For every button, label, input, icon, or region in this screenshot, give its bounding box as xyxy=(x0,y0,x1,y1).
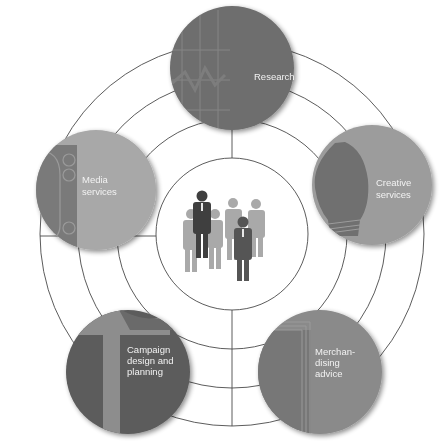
node-merchandising-advice[interactable]: Merchan- dising advice xyxy=(255,310,382,440)
node-research-label: Research xyxy=(254,71,295,82)
node-creative-services-label: Creative services xyxy=(376,177,414,200)
node-campaign-design-and-planning[interactable]: Campaign design and planning xyxy=(60,308,190,435)
media-panel-icon xyxy=(30,145,77,255)
catalog-pages-icon xyxy=(255,322,311,440)
node-research[interactable]: Research xyxy=(170,6,295,130)
node-creative-services[interactable]: Creative services xyxy=(312,125,432,245)
agency-services-diagram: Research Media services Creative service… xyxy=(0,0,443,442)
